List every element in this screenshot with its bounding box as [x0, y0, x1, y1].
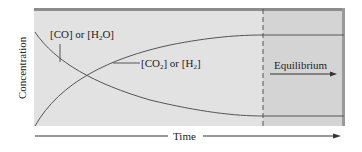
y-axis-label: Concentration	[16, 36, 28, 99]
right-border	[342, 8, 345, 126]
time-arrow-head-icon	[333, 134, 341, 139]
equilibrium-label: Equilibrium	[274, 59, 328, 71]
product-label: [CO2] or [H2]	[141, 57, 201, 71]
x-axis-label: Time	[173, 130, 196, 142]
top-border	[34, 8, 344, 11]
concentration-time-diagram: [CO] or [H2O] [CO2] or [H2] Equilibrium …	[0, 0, 362, 152]
reactant-label: [CO] or [H2O]	[50, 28, 114, 42]
